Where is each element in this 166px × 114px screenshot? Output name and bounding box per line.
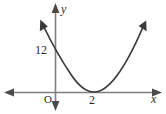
y-axis — [52, 3, 60, 111]
parabola-left-arrowhead — [40, 20, 48, 32]
x-axis — [4, 89, 162, 97]
y-intercept-label: 12 — [35, 44, 47, 56]
origin-label: O — [44, 94, 52, 105]
y-axis-bottom-arrowhead — [52, 101, 60, 111]
x-axis-label: x — [151, 93, 156, 105]
y-axis-label: y — [61, 3, 66, 15]
parabola-path — [44, 26, 144, 92]
graph-canvas — [0, 0, 166, 114]
x-axis-left-arrowhead — [4, 89, 14, 97]
y-axis-top-arrowhead — [52, 3, 60, 13]
x-vertex-label: 2 — [89, 94, 95, 106]
parabola-figure: y x 12 2 O — [0, 0, 166, 114]
